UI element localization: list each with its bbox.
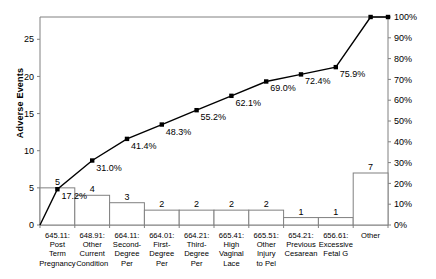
y2-tick-label: 0%: [394, 220, 407, 230]
y-tick-label: 5: [29, 183, 34, 193]
bar-value-label: 1: [333, 207, 338, 217]
bar-value-label: 7: [368, 162, 373, 172]
x-category-label: Lace: [223, 259, 239, 268]
cumulative-marker: [160, 122, 164, 126]
x-category-label: Post: [50, 240, 66, 249]
y2-tick-label: 40%: [394, 137, 412, 147]
x-category-label: Vaginal: [219, 249, 244, 258]
cumulative-marker: [194, 108, 198, 112]
bar-value-label: 2: [229, 199, 234, 209]
y-tick-label: 10: [24, 146, 34, 156]
x-category-label: Other: [361, 231, 380, 240]
y2-tick-label: 70%: [394, 75, 412, 85]
cumulative-marker: [90, 158, 94, 162]
x-category-label: Previous: [286, 240, 316, 249]
x-category-label: First-: [153, 240, 171, 249]
y-tick-label: 15: [24, 109, 34, 119]
bar: [249, 210, 284, 225]
bar: [353, 173, 388, 225]
y-tick-label: 0: [29, 220, 34, 230]
y2-tick-label: 30%: [394, 158, 412, 168]
y2-tick-label: 60%: [394, 95, 412, 105]
x-category-label: Other: [83, 240, 102, 249]
cumulative-value-label: 48.3%: [166, 127, 192, 137]
y2-tick-label: 90%: [394, 33, 412, 43]
cumulative-value-label: 17.2%: [61, 191, 87, 201]
bar: [318, 218, 353, 225]
y-tick-label: 20: [24, 72, 34, 82]
x-category-label: 648.91:: [80, 231, 105, 240]
x-category-label: Term: [49, 249, 66, 258]
y2-tick-label: 100%: [394, 12, 417, 22]
x-category-label: Other: [257, 240, 276, 249]
y-tick-label: 25: [24, 34, 34, 44]
x-category-label: Current: [80, 249, 106, 258]
bar-value-label: 1: [298, 207, 303, 217]
cumulative-marker: [368, 15, 372, 19]
x-category-label: Cesarean: [285, 249, 318, 258]
x-category-label: to Pel: [256, 259, 276, 268]
cumulative-marker-final: [386, 15, 390, 19]
x-category-label: High: [224, 240, 240, 249]
bar: [144, 210, 179, 225]
x-category-label: Condition: [76, 259, 108, 268]
x-category-label: Degree: [149, 249, 174, 258]
x-category-label: Per: [121, 259, 133, 268]
x-category-label: Second-: [113, 240, 142, 249]
x-category-label: Fetal G: [323, 249, 348, 258]
x-category-label: Per: [156, 259, 168, 268]
x-category-label: 664.21:: [184, 231, 209, 240]
x-category-label: Degree: [115, 249, 140, 258]
bar: [110, 203, 145, 225]
cumulative-marker: [55, 187, 59, 191]
x-category-label: Excessive: [319, 240, 353, 249]
y2-tick-label: 80%: [394, 54, 412, 64]
bar: [284, 218, 319, 225]
cumulative-marker: [229, 94, 233, 98]
pareto-chart: Adverse Events 05101520250%10%20%30%40%5…: [0, 0, 436, 279]
bar-value-label: 2: [194, 199, 199, 209]
x-category-label: 664.11:: [115, 231, 140, 240]
cumulative-marker: [299, 72, 303, 76]
x-category-label: Per: [191, 259, 203, 268]
x-category-label: 645.11:: [45, 231, 70, 240]
cumulative-value-label: 55.2%: [201, 112, 227, 122]
bar-value-label: 4: [90, 184, 95, 194]
x-category-label: 656.61:: [323, 231, 348, 240]
bar-value-label: 3: [124, 192, 129, 202]
cumulative-marker: [125, 137, 129, 141]
cumulative-value-label: 75.9%: [340, 69, 366, 79]
bar-value-label: 2: [264, 199, 269, 209]
y2-tick-label: 10%: [394, 199, 412, 209]
cumulative-value-label: 69.0%: [270, 83, 296, 93]
x-category-label: Pregnancy: [39, 259, 76, 268]
x-category-label: Degree: [184, 249, 209, 258]
bar: [179, 210, 214, 225]
chart-canvas: 05101520250%10%20%30%40%50%60%70%80%90%1…: [0, 0, 436, 279]
y2-tick-label: 20%: [394, 179, 412, 189]
cumulative-value-label: 62.1%: [235, 98, 261, 108]
x-category-label: Injury: [257, 249, 276, 258]
bar-value-label: 2: [159, 199, 164, 209]
cumulative-marker: [264, 79, 268, 83]
cumulative-value-label: 31.0%: [96, 163, 122, 173]
cumulative-value-label: 72.4%: [305, 76, 331, 86]
cumulative-marker: [334, 65, 338, 69]
bar-value-label: 5: [55, 177, 60, 187]
x-category-label: Third-: [187, 240, 207, 249]
x-category-label: 654.21:: [288, 231, 313, 240]
x-category-label: 665.51:: [254, 231, 279, 240]
cumulative-value-label: 41.4%: [131, 141, 157, 151]
bar: [214, 210, 249, 225]
x-category-label: 664.01:: [149, 231, 174, 240]
x-category-label: 665.41:: [219, 231, 244, 240]
y2-tick-label: 50%: [394, 116, 412, 126]
